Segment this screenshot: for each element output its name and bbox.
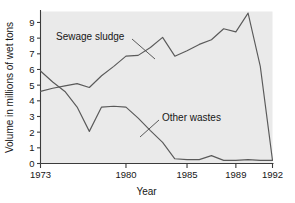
line-chart: 012345678919731980198519891992Sewage slu… <box>0 0 295 203</box>
x-tick-label: 1980 <box>115 169 136 180</box>
y-tick-label: 2 <box>29 127 34 138</box>
y-tick-label: 7 <box>29 48 34 59</box>
chart-figure: 012345678919731980198519891992Sewage slu… <box>0 0 295 203</box>
y-tick-label: 1 <box>29 142 34 153</box>
y-axis-title: Volume in millions of wet tons <box>4 22 15 153</box>
x-axis-title: Year <box>136 186 157 197</box>
y-tick-label: 8 <box>29 33 34 44</box>
y-tick-label: 9 <box>29 17 34 28</box>
x-tick-label: 1985 <box>176 169 197 180</box>
x-tick-label: 1989 <box>225 169 246 180</box>
y-tick-label: 3 <box>29 111 34 122</box>
annotation-label-other-wastes: Other wastes <box>162 112 221 123</box>
x-tick-label: 1992 <box>262 169 283 180</box>
y-tick-label: 5 <box>29 80 34 91</box>
annotation-label-sewage-sludge: Sewage sludge <box>56 31 125 42</box>
y-tick-label: 0 <box>29 158 34 169</box>
y-tick-label: 6 <box>29 64 34 75</box>
y-tick-label: 4 <box>29 95 34 106</box>
x-tick-label: 1973 <box>30 169 51 180</box>
